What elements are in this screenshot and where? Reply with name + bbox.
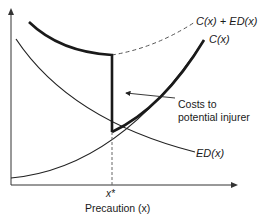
y-axis-arrow-icon: [8, 8, 14, 15]
cost-curve: [11, 40, 204, 178]
cost-label: C(x): [209, 33, 230, 45]
xstar-tick-label: x*: [105, 188, 116, 199]
ed-curve: [16, 39, 195, 152]
total-cost-label: C(x) + ED(x): [196, 15, 258, 27]
annotation-line1: Costs to: [178, 98, 217, 110]
x-axis-arrow-icon: [231, 182, 238, 188]
annotation-line2: potential injurer: [178, 111, 250, 123]
annotation-arrow: [126, 93, 175, 98]
x-axis-title: Precaution (x): [85, 202, 150, 214]
diagram-canvas: C(x) + ED(x) C(x) Costs to potential inj…: [0, 0, 266, 215]
ed-label: ED(x): [196, 147, 224, 159]
total-cost-curve: [29, 22, 195, 55]
